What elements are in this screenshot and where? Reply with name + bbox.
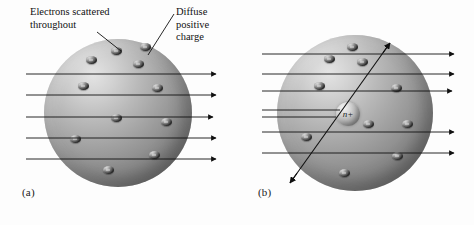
scattered-ray-arrowhead — [383, 43, 390, 53]
scattered-ray-arrowhead — [290, 173, 297, 183]
atomic-models-figure: Electrons scattered throughout Diffuse p… — [0, 0, 474, 225]
callout-leader-lines — [97, 14, 174, 55]
callout-leader-line — [148, 14, 174, 55]
scattered-ray — [290, 43, 390, 183]
rays-overlay — [0, 0, 474, 225]
callout-leader-line — [97, 32, 121, 51]
ray-group-b — [262, 43, 454, 183]
ray-group-a — [26, 74, 216, 159]
